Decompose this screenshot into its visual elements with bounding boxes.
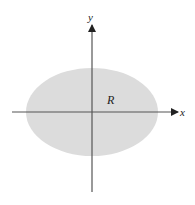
region-diagram: y x R [0,0,195,205]
y-axis-label: y [87,11,93,23]
x-axis-label: x [179,106,185,118]
region-label: R [106,93,115,107]
